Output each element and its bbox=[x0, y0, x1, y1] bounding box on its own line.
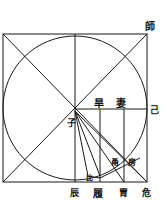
label-right-mid: 己 bbox=[150, 105, 159, 115]
label-inner-a: 甬 bbox=[111, 157, 119, 167]
label-center: 子 bbox=[67, 118, 76, 128]
label-upper-b: 妻 bbox=[116, 97, 126, 109]
label-bottom-2: 履 bbox=[92, 188, 103, 199]
label-inner-b: 房 bbox=[128, 157, 136, 167]
label-bottom-3: 胃 bbox=[119, 188, 128, 198]
label-inner-c: 比 bbox=[86, 173, 93, 182]
label-bottom-1: 辰 bbox=[70, 188, 80, 198]
label-top-right: 師 bbox=[145, 20, 155, 32]
label-upper-a: 旱 bbox=[94, 98, 104, 109]
label-bottom-4: 危 bbox=[141, 187, 151, 198]
geometry-diagram: 師 己 旱 妻 子 甬 房 比 辰 履 胃 危 bbox=[0, 0, 166, 222]
